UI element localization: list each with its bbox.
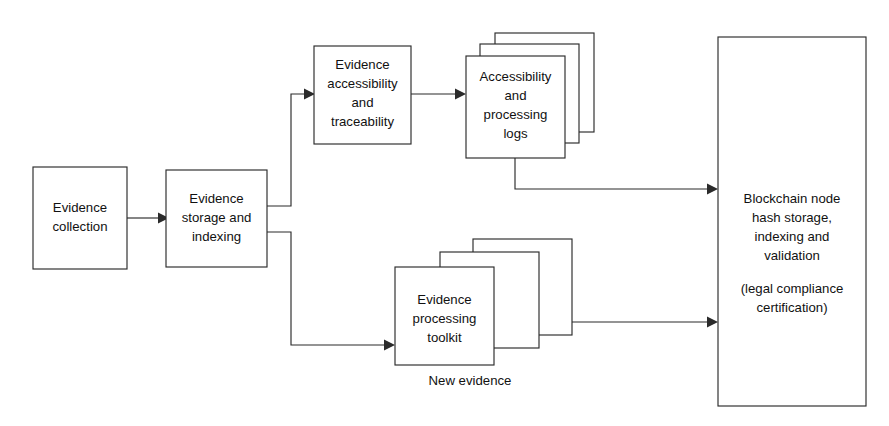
node-label-line-1: Evidence: [189, 191, 243, 206]
node-label-line-3: indexing and: [755, 229, 830, 244]
arrow-head-icon: [707, 317, 718, 328]
node-label-secondary-line-2: certification): [756, 300, 827, 315]
node-label-line-3: indexing: [192, 229, 241, 244]
node-label-line-4: logs: [503, 126, 528, 141]
node-label-line-4: validation: [764, 248, 820, 263]
edge-logs-to-blockchain: [515, 158, 718, 195]
node-label-secondary-line-1: (legal compliance: [741, 281, 844, 296]
node-label-line-2: and: [504, 88, 526, 103]
edge-storage-to-toolkit: [267, 232, 395, 351]
node-label-line-1: Accessibility: [480, 69, 552, 84]
node-label-line-1: Blockchain node: [744, 191, 841, 206]
node-label-line-3: and: [351, 95, 373, 110]
node-label-line-2: collection: [53, 219, 108, 234]
edge-storage-to-accessibility: [267, 89, 315, 207]
edge-line: [515, 158, 707, 189]
node-blockchain[interactable]: Blockchain node hash storage, indexing a…: [718, 37, 866, 406]
arrow-head-icon: [304, 89, 315, 100]
flowchart-canvas: Evidence collection Evidence storage and…: [0, 0, 889, 426]
node-accessibility-logs[interactable]: Accessibility and processing logs: [466, 33, 594, 158]
edge-accessibility-to-logs: [411, 89, 466, 100]
node-label-line-2: accessibility: [327, 76, 398, 91]
node-label-line-2: storage and: [182, 210, 252, 225]
node-label-line-2: hash storage,: [752, 210, 832, 225]
node-evidence-toolkit[interactable]: Evidence processing toolkit New evidence: [395, 239, 572, 388]
node-label-line-1: Evidence: [335, 57, 389, 72]
arrow-head-icon: [455, 89, 466, 100]
edge-collection-to-storage: [127, 213, 169, 224]
edge-toolkit-to-blockchain: [572, 317, 718, 328]
node-label-line-4: traceability: [331, 114, 394, 129]
node-caption-new-evidence: New evidence: [429, 373, 512, 388]
node-box: [33, 167, 127, 269]
edge-line: [267, 232, 385, 345]
node-evidence-accessibility[interactable]: Evidence accessibility and traceability: [314, 46, 411, 144]
node-evidence-collection[interactable]: Evidence collection: [33, 167, 127, 269]
node-label-line-3: toolkit: [427, 330, 462, 345]
node-label-line-2: processing: [413, 311, 477, 326]
arrow-head-icon: [384, 340, 395, 351]
node-label-line-3: processing: [484, 107, 548, 122]
node-label-line-1: Evidence: [417, 292, 471, 307]
arrow-head-icon: [707, 184, 718, 195]
flowchart-diagram: Evidence collection Evidence storage and…: [0, 0, 889, 426]
node-evidence-storage[interactable]: Evidence storage and indexing: [166, 170, 267, 267]
node-label-line-1: Evidence: [53, 200, 107, 215]
edge-line: [267, 94, 305, 206]
